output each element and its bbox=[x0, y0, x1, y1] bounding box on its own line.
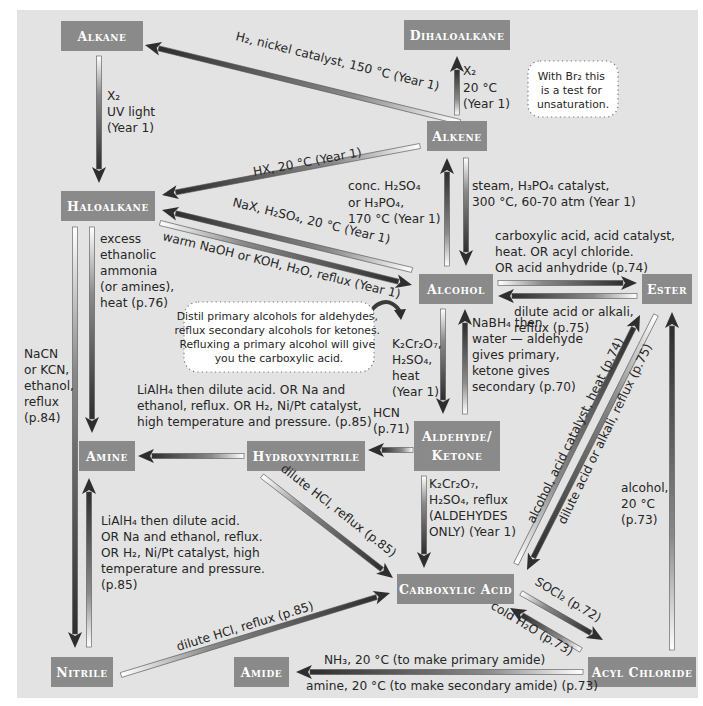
label-acyl-ester: alcohol, 20 °C (p.73) bbox=[621, 481, 672, 527]
arrow-alkene-to-dihaloalkane: alkene → dihaloalkane bbox=[450, 56, 464, 115]
arrowhead-icon bbox=[417, 552, 431, 568]
node-label: Amide bbox=[240, 665, 283, 680]
arrow-ester-to-alcohol: ester → alcohol bbox=[498, 289, 637, 303]
arrow-acyl-to-amide: acyl chloride → amide bbox=[296, 665, 583, 679]
node-label: Haloalkane bbox=[67, 199, 149, 214]
arrowhead-icon bbox=[521, 553, 541, 574]
node-label: Hydroxynitrile bbox=[252, 449, 359, 464]
node-nitrile: Nitrile bbox=[51, 657, 113, 687]
arrowhead-icon bbox=[436, 398, 450, 414]
node-label: Nitrile bbox=[56, 665, 107, 680]
label-alcohol-alkene: conc. H₂SO₄ or H₃PO₄, 170 °C (Year 1) bbox=[348, 179, 441, 226]
label-alkene-alcohol: steam, H₃PO₄ catalyst, 300 °C, 60-70 atm… bbox=[472, 179, 636, 209]
label-nitrile-amine: LiAlH₄ then dilute acid. OR Na and ethan… bbox=[101, 514, 269, 592]
node-label: Dihaloalkane bbox=[410, 28, 505, 43]
node-alkane: Alkane bbox=[61, 21, 143, 51]
arrowhead-icon bbox=[138, 449, 154, 463]
note-line: With Br₂ this is a test for unsaturation… bbox=[537, 70, 609, 111]
node-alkene: Alkene bbox=[427, 121, 487, 151]
arrowhead-icon bbox=[68, 632, 82, 648]
label-hydroxynitrile-carboxylic: dilute HCl, reflux (p.85) bbox=[278, 461, 399, 560]
node-label: Acyl Chloride bbox=[591, 665, 693, 680]
node-hydroxynitrile: Hydroxynitrile bbox=[247, 441, 365, 471]
arrow-hydroxynitrile-to-amine: hydroxynitrile → amine bbox=[138, 449, 244, 463]
label-alcohol-aldehyde: K₂Cr₂O₇, H₂SO₄, heat (Year 1) bbox=[392, 337, 446, 399]
node-haloalkane: Haloalkane bbox=[61, 191, 155, 221]
note-oxidation: Distil primary alcohols for aldehydes, r… bbox=[175, 302, 384, 372]
arrowhead-icon bbox=[85, 417, 99, 433]
node-label: Alkene bbox=[431, 129, 481, 144]
label-acyl-carboxylic: cold H₂O (p.73) bbox=[488, 599, 575, 659]
label-nitrile-carboxylic: dilute HCl, reflux (p.85) bbox=[175, 599, 315, 654]
arrowhead-icon bbox=[498, 289, 514, 303]
reaction-pathway-diagram: alkene → alkanealkane → haloalkanealkene… bbox=[0, 0, 703, 706]
arrow-alcohol-to-ester: alcohol → ester bbox=[498, 276, 637, 290]
node-amine: Amine bbox=[79, 441, 135, 471]
arrow-nitrile-to-amine: nitrile → amine bbox=[82, 478, 96, 647]
label-aldehyde-carboxylic: K₂Cr₂O₇, H₂SO₄, reflux (ALDEHYDES ONLY) … bbox=[429, 477, 516, 539]
arrow-alkane-to-haloalkane: alkane → haloalkane bbox=[92, 56, 106, 183]
label-alkene-dihaloalkane: X₂ 20 °C (Year 1) bbox=[463, 64, 510, 111]
arrowhead-icon bbox=[440, 158, 454, 174]
note-bromine-test: With Br₂ this is a test for unsaturation… bbox=[528, 61, 618, 117]
arrowhead-icon bbox=[665, 312, 679, 328]
label-haloalkane-nitrile: NaCN or KCN, ethanol, reflux (p.84) bbox=[24, 347, 78, 425]
node-ester: Ester bbox=[642, 274, 692, 304]
arrowhead-icon bbox=[82, 478, 96, 494]
arrow-alcohol-to-alkene: alcohol → alkene bbox=[440, 158, 454, 266]
node-label: Ester bbox=[647, 282, 687, 297]
arrow-haloalkane-to-nitrile: haloalkane → nitrile bbox=[68, 227, 82, 648]
node-amide: Amide bbox=[234, 657, 289, 687]
arrow-hydroxynitrile-to-carboxylic: hydroxynitrile → carboxylic acid bbox=[258, 470, 398, 583]
arrowhead-icon bbox=[296, 665, 312, 679]
curved-arrowhead-icon bbox=[394, 309, 406, 320]
node-dihaloalkane: Dihaloalkane bbox=[404, 20, 510, 50]
arrowhead-icon bbox=[368, 443, 384, 457]
label-acyl-amide-primary: NH₃, 20 °C (to make primary amide) bbox=[324, 653, 545, 667]
node-label: Aldehyde/ bbox=[421, 429, 492, 444]
arrow-aldehyde-to-alcohol: aldehyde/ketone → alcohol bbox=[458, 309, 472, 414]
node-label: Carboxylic Acid bbox=[399, 582, 512, 597]
arrow-haloalkane-to-amine: haloalkane → amine bbox=[85, 227, 99, 433]
label-alkane-haloalkane: X₂ UV light (Year 1) bbox=[107, 89, 159, 135]
arrowhead-icon bbox=[459, 250, 473, 266]
node-label: Alcohol bbox=[426, 282, 485, 297]
arrowhead-icon bbox=[92, 167, 106, 183]
arrowhead-icon bbox=[458, 309, 472, 325]
arrow-aldehyde-to-hydroxynitrile: aldehyde → hydroxynitrile bbox=[368, 443, 413, 457]
node-label: Alkane bbox=[76, 29, 126, 44]
node-acyl-chloride: Acyl Chloride bbox=[588, 657, 696, 687]
label-aldehyde-hydroxynitrile: HCN (p.71) bbox=[373, 406, 410, 436]
arrowhead-icon bbox=[621, 276, 637, 290]
node-label: Ketone bbox=[432, 448, 483, 463]
label-hydroxynitrile-amine: LiAlH₄ then dilute acid. OR Na and ethan… bbox=[137, 383, 372, 429]
arrow-alkene-to-alcohol: alkene → alcohol bbox=[459, 158, 473, 266]
label-alcohol-ester: carboxylic acid, acid catalyst, heat. OR… bbox=[495, 229, 679, 275]
arrowhead-icon bbox=[450, 56, 464, 72]
node-aldehyde-ketone: Aldehyde/Ketone bbox=[414, 421, 500, 471]
label-acyl-amide-secondary: amine, 20 °C (to make secondary amide) (… bbox=[306, 679, 598, 693]
node-alcohol: Alcohol bbox=[419, 274, 493, 304]
node-label: Amine bbox=[85, 449, 128, 464]
